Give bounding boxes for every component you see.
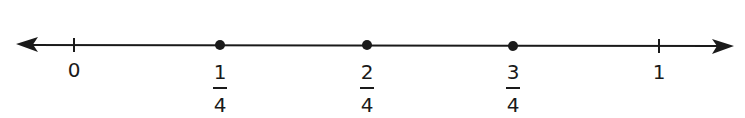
- fraction-bar: [360, 87, 374, 89]
- numerator: 2: [352, 62, 382, 82]
- denominator: 4: [205, 95, 235, 115]
- point-three-fourths: [508, 41, 518, 51]
- axis-line: [26, 45, 722, 46]
- label-1: 1: [644, 62, 674, 82]
- label-three-fourths: 3 4: [498, 62, 528, 115]
- label-0: 0: [59, 60, 89, 80]
- numerator: 1: [205, 62, 235, 82]
- fraction-bar: [506, 87, 520, 89]
- fraction-bar: [213, 87, 227, 89]
- denominator: 4: [498, 95, 528, 115]
- label-two-fourths: 2 4: [352, 62, 382, 115]
- denominator: 4: [352, 95, 382, 115]
- point-one-fourth: [215, 40, 225, 50]
- numerator: 3: [498, 62, 528, 82]
- point-two-fourths: [362, 40, 372, 50]
- label-one-fourth: 1 4: [205, 62, 235, 115]
